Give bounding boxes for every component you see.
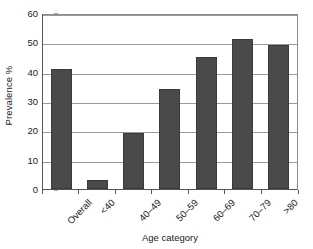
bars-layer: [43, 15, 297, 189]
bar-slot: [261, 15, 297, 189]
x-tick-mark: [151, 190, 152, 194]
x-tick-mark: [42, 190, 43, 194]
x-tick-mark: [188, 190, 189, 194]
y-tick-label: 30: [16, 97, 38, 107]
y-axis-tick-labels: 0102030405060: [16, 14, 38, 190]
x-tick-mark: [261, 190, 262, 194]
bar: [232, 39, 253, 189]
x-tick-mark: [224, 190, 225, 194]
y-tick-label: 60: [16, 9, 38, 19]
x-tick-label: <40: [98, 197, 117, 216]
bar: [159, 89, 180, 189]
bar-slot: [116, 15, 152, 189]
bar-slot: [152, 15, 188, 189]
x-tick-mark: [298, 190, 299, 194]
x-label-slot: 50–59: [152, 195, 189, 229]
x-tick-mark: [78, 190, 79, 194]
x-tick-mark: [115, 190, 116, 194]
y-tick-label: 20: [16, 127, 38, 137]
y-tick-label: 40: [16, 68, 38, 78]
bar: [123, 133, 144, 189]
bar: [196, 57, 217, 189]
bar-slot: [224, 15, 260, 189]
y-tick-label: 10: [16, 156, 38, 166]
x-label-slot: <40: [79, 195, 116, 229]
y-tick-label: 0: [16, 185, 38, 195]
x-label-slot: >80: [261, 195, 298, 229]
bar: [268, 45, 289, 189]
x-axis-title: Age category: [42, 232, 298, 243]
bar-slot: [79, 15, 115, 189]
x-label-slot: Overall: [42, 195, 79, 229]
x-label-slot: 40–49: [115, 195, 152, 229]
bar-chart-figure: Prevalence % 0102030405060 Overall<4040–…: [0, 0, 313, 249]
y-axis-title-label: Prevalence %: [4, 65, 15, 125]
x-label-slot: 60–69: [188, 195, 225, 229]
bar-slot: [43, 15, 79, 189]
x-tick-label: >80: [280, 197, 299, 216]
bar-slot: [188, 15, 224, 189]
y-tick-label: 50: [16, 39, 38, 49]
bar: [51, 69, 72, 189]
bar: [87, 180, 108, 189]
x-label-slot: 70–79: [225, 195, 262, 229]
plot-area: [42, 14, 298, 190]
x-axis-tick-labels: Overall<4040–4950–5960–6970–79>80: [42, 195, 298, 229]
